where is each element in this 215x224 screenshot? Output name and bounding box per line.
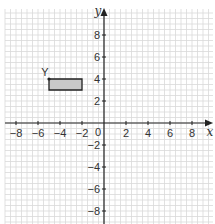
x-axis-label: x [207,125,214,139]
grid-lines [5,9,213,224]
x-tick-label: −2 [76,127,89,139]
x-tick-label: 2 [123,127,129,139]
shaded-rectangle [49,79,82,90]
x-tick-label: 6 [167,127,173,139]
x-tick-label: −4 [54,127,67,139]
x-tick-label: 4 [145,127,151,139]
y-tick-label: −4 [87,161,100,173]
y-tick-label: 2 [94,95,100,107]
y-axis-label: y [94,4,102,18]
x-tick-label: −8 [10,127,23,139]
y-tick-label: 4 [94,73,100,85]
point-label: Y [41,66,49,78]
y-tick-label: 8 [94,29,100,41]
y-tick-label: −6 [87,183,100,195]
y-tick-label: −2 [87,139,100,151]
x-tick-label: −6 [32,127,45,139]
coordinate-plane: xy −8−6−4−224688642−2−4−6−80 Y [0,0,215,224]
y-tick-label: 6 [94,51,100,63]
x-tick-label: 8 [189,127,195,139]
origin-label: 0 [95,126,101,138]
y-tick-label: −8 [87,205,100,217]
y-axis-arrow-icon [101,8,108,16]
shapes-layer [49,79,82,90]
